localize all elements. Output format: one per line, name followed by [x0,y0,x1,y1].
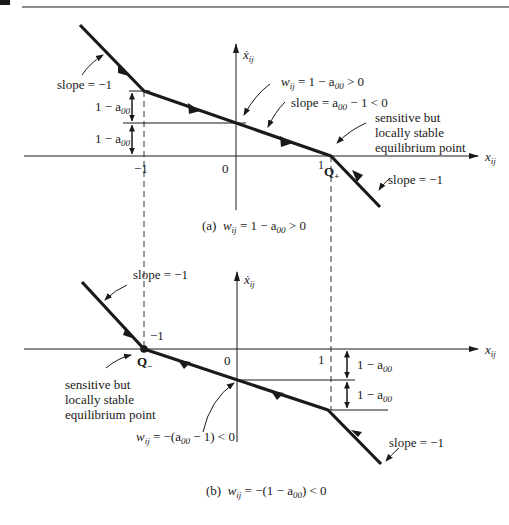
equilibrium-note-a: sensitive but locally stable equilibrium… [375,110,466,155]
slope-label-mid-a: slope = a00 − 1 < 0 [291,96,388,114]
x-axis-label-b: xij [485,343,496,361]
x-axis-label-a: xij [485,150,496,168]
tick-0-a: 0 [222,162,229,176]
tick-minus1-a: −1 [134,162,148,176]
slope-label-left-a: slope = −1 [57,78,112,92]
w-label-b: wij = −(a00 − 1) < 0 [136,430,235,448]
equilibrium-point-q-minus [140,345,148,353]
slope-label-right-b: slope = −1 [389,436,444,450]
caption-a: (a) wij = 1 − a00 > 0 [202,218,306,235]
y-axis-label-b: ẋij [244,273,255,291]
caption-b: (b) wij = −(1 − a00) < 0 [206,483,327,500]
header-tab-mark [0,0,10,5]
tick-0-b: 0 [224,354,231,368]
tick-minus1-b: −1 [150,329,164,343]
gap-label-lower-a: 1 − a00 [95,132,130,150]
gap-label-upper-a: 1 − a00 [95,100,130,118]
point-label-q-minus: Q− [137,355,152,373]
slope-label-right-a: slope = −1 [388,173,443,187]
y-axis-label-a: ẋij [243,48,254,66]
slope-label-left-b: slope = −1 [133,268,188,282]
gap-label-upper-b: 1 − a00 [357,358,392,376]
tick-1-b: 1 [318,353,325,367]
equilibrium-note-b: sensitive but locally stable equilibrium… [65,377,156,422]
gap-label-lower-b: 1 − a00 [357,388,392,406]
w-label-a: wij = 1 − a00 > 0 [281,75,364,93]
point-label-q-plus: Q+ [324,165,339,183]
